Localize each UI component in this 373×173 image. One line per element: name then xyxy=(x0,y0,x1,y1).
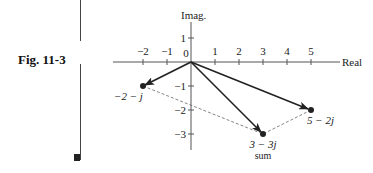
y-tick-label: −1 xyxy=(174,80,186,92)
y-tick-label: −3 xyxy=(174,128,186,140)
x-tick-label: 2 xyxy=(236,45,242,57)
point-sum xyxy=(260,131,266,137)
x-tick-label: 1 xyxy=(212,45,218,57)
real-axis-label: Real xyxy=(342,56,362,68)
point-label-sum: 3 − 3j xyxy=(249,138,277,150)
dashed-line-p1-to-sum xyxy=(143,86,263,134)
vector-arrow-p2 xyxy=(191,62,308,109)
point-p2 xyxy=(308,107,314,113)
x-tick-label: 0 xyxy=(183,47,189,59)
complex-plane-diagram: −2 −1 0 1 2 3 4 5 1 −1 −2 −3 Imag. Real … xyxy=(0,0,373,173)
dashed-line-p2-to-sum xyxy=(263,110,311,134)
point-label-p1: −2 − j xyxy=(114,90,143,102)
x-tick-label: −2 xyxy=(137,45,149,57)
point-label-p2: 5 − 2j xyxy=(307,114,334,126)
x-tick-label: 4 xyxy=(284,45,290,57)
vector-arrow-sum xyxy=(191,62,261,132)
x-tick-label: 5 xyxy=(308,45,314,57)
sum-label: sum xyxy=(255,150,272,161)
imag-axis-label: Imag. xyxy=(181,9,207,21)
x-tick-label: 3 xyxy=(260,45,266,57)
y-tick-label: −2 xyxy=(174,104,186,116)
point-p1 xyxy=(140,83,146,89)
x-tick-label: −1 xyxy=(161,45,173,57)
y-tick-label: 1 xyxy=(181,32,187,44)
